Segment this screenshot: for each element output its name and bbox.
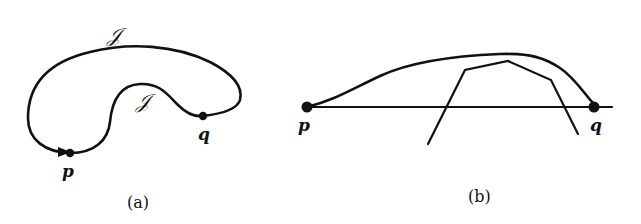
- panel-b-caption: (b): [468, 187, 491, 206]
- point-q-label: q: [590, 115, 602, 135]
- point-q-dot: [199, 112, 207, 120]
- panel-a-caption: (a): [127, 193, 149, 212]
- point-q-dot: [589, 102, 600, 113]
- point-p-dot: [66, 149, 74, 157]
- polygonal-curve: [428, 61, 578, 144]
- point-q-label: q: [198, 124, 210, 144]
- figure-canvas: 𝒥 𝒥 p q (a) p q (b): [0, 0, 641, 224]
- panel-b: p q (b): [298, 54, 612, 206]
- panel-a: 𝒥 𝒥 p q (a): [28, 23, 241, 212]
- outer-curve-label: 𝒥: [106, 23, 128, 47]
- point-p-label: p: [62, 161, 74, 181]
- inner-curve-label: 𝒥: [135, 89, 157, 113]
- point-p-label: p: [298, 115, 310, 135]
- point-p-dot: [302, 102, 313, 113]
